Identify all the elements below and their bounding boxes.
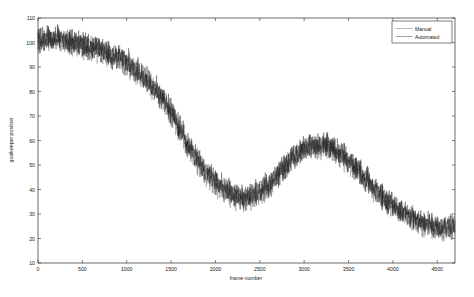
x-tick-label: 3000 — [298, 266, 310, 272]
data-series-group — [38, 25, 455, 242]
y-tick-label: 90 — [29, 64, 35, 70]
y-tick-label: 50 — [29, 162, 35, 168]
y-tick-label: 110 — [27, 15, 35, 21]
x-tick-label: 1500 — [165, 266, 177, 272]
y-tick-label: 30 — [29, 211, 35, 217]
y-axis-title: goalkeeper position — [8, 117, 14, 162]
goalkeeper-position-line-chart: 050010001500200025003000350040004500 102… — [0, 0, 474, 297]
x-tick-label: 1000 — [121, 266, 133, 272]
y-axis-ticks — [38, 18, 455, 263]
x-tick-label: 500 — [78, 266, 87, 272]
y-tick-label: 60 — [29, 138, 35, 144]
y-tick-label: 100 — [26, 40, 35, 46]
x-tick-label: 4500 — [431, 266, 443, 272]
legend-box — [392, 21, 452, 43]
y-tick-label: 70 — [29, 113, 35, 119]
x-tick-label: 4000 — [387, 266, 399, 272]
x-tick-label: 2000 — [210, 266, 222, 272]
legend-label-automated: Automated — [415, 34, 439, 40]
x-tick-label: 3500 — [343, 266, 355, 272]
y-tick-label: 40 — [29, 187, 35, 193]
x-axis-tick-labels: 050010001500200025003000350040004500 — [37, 266, 444, 272]
y-tick-label: 80 — [29, 89, 35, 95]
x-axis-title: frame number — [230, 275, 263, 281]
x-tick-label: 2500 — [254, 266, 266, 272]
x-tick-label: 0 — [37, 266, 40, 272]
chart-legend: Manual Automated — [392, 21, 452, 43]
plot-frame — [38, 18, 455, 263]
legend-label-manual: Manual — [415, 26, 431, 32]
chart-figure: 050010001500200025003000350040004500 102… — [0, 0, 474, 297]
y-tick-label: 10 — [29, 260, 35, 266]
y-axis-tick-labels: 102030405060708090100110 — [26, 15, 35, 266]
y-tick-label: 20 — [29, 236, 35, 242]
